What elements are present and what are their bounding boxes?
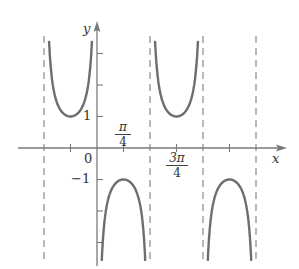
x-tick-label-3pi-over-4: 3π 4 <box>166 152 188 179</box>
origin-label: 0 <box>84 152 92 165</box>
curve-branch <box>155 41 198 117</box>
y-tick-label-neg1: −1 <box>71 172 90 185</box>
curve-branch <box>49 41 92 117</box>
graph-plot <box>0 0 299 269</box>
asymptote-lines <box>44 36 256 262</box>
curve-branch <box>208 180 251 261</box>
y-axis-label: y <box>83 22 90 35</box>
y-tick-label-1: 1 <box>83 109 91 122</box>
fraction-numerator: π <box>115 121 131 135</box>
x-tick-label-pi-over-4: π 4 <box>115 121 131 148</box>
fraction-numerator: 3π <box>166 152 188 166</box>
fraction-denominator: 4 <box>166 166 188 179</box>
x-axis-label: x <box>272 152 279 165</box>
curve-branch <box>102 180 145 261</box>
fraction-denominator: 4 <box>115 135 131 148</box>
axes <box>18 21 287 266</box>
